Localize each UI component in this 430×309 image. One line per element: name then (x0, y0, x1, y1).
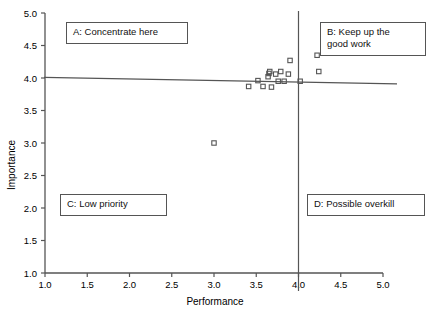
x-tick-label: 1.0 (38, 279, 51, 290)
x-tick-label: 2.5 (165, 279, 178, 290)
data-point-marker (273, 72, 277, 76)
y-tick-label: 1.5 (24, 235, 37, 246)
quadrant-label-b: B: Keep up the good work (320, 22, 426, 56)
horizontal-reference-line (44, 77, 397, 84)
x-tick-label: 3.0 (207, 279, 220, 290)
importance-performance-chart: 1.01.52.02.53.03.54.04.55.01.01.52.02.53… (0, 0, 430, 309)
x-tick-label: 1.5 (81, 279, 94, 290)
x-tick-label: 3.5 (250, 279, 263, 290)
y-tick-label: 3.0 (24, 138, 37, 149)
data-point-marker (212, 141, 216, 145)
y-tick-label: 4.0 (24, 73, 37, 84)
data-point-marker (279, 69, 283, 73)
y-tick-label: 2.5 (24, 170, 37, 181)
y-tick-label: 1.0 (24, 268, 37, 279)
y-axis-title: Importance (6, 140, 17, 190)
x-tick-label: 2.0 (123, 279, 136, 290)
y-tick-label: 4.5 (24, 40, 37, 51)
x-tick-label: 5.0 (376, 279, 389, 290)
y-tick-label: 5.0 (24, 8, 37, 19)
quadrant-label-d: D: Possible overkill (307, 194, 425, 216)
y-tick-label: 2.0 (24, 203, 37, 214)
data-point-marker (261, 84, 265, 88)
data-points-group (212, 53, 321, 145)
x-tick-label: 4.5 (334, 279, 347, 290)
data-point-marker (256, 78, 260, 82)
data-point-marker (286, 72, 290, 76)
data-point-marker (288, 58, 292, 62)
data-point-marker (317, 69, 321, 73)
data-point-marker (246, 84, 250, 88)
x-axis-title: Performance (0, 296, 430, 307)
quadrant-label-a: A: Concentrate here (66, 22, 188, 44)
data-point-marker (269, 85, 273, 89)
quadrant-label-c: C: Low priority (60, 194, 167, 216)
data-point-marker (315, 53, 319, 57)
y-tick-label: 3.5 (24, 105, 37, 116)
